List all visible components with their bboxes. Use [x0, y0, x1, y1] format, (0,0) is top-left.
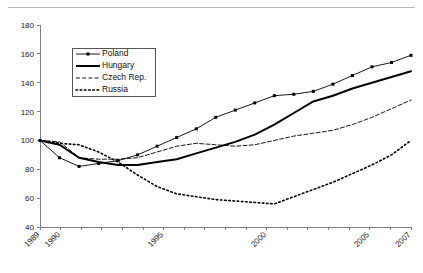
data-point-marker	[156, 145, 159, 148]
x-axis-tick-label: 1995	[146, 230, 165, 249]
y-axis: 406080100120140160180	[21, 21, 40, 232]
data-point-marker	[175, 136, 178, 139]
y-axis-tick-label: 100	[21, 136, 35, 145]
chart-container: 406080100120140160180 198919901995200020…	[0, 0, 423, 273]
data-point-marker	[253, 101, 256, 104]
data-point-marker	[234, 109, 237, 112]
data-point-marker	[292, 93, 295, 96]
series-line-czech-rep	[40, 100, 411, 159]
data-point-marker	[273, 94, 276, 97]
legend-label-russia: Russia	[102, 84, 128, 94]
legend-label-czech-rep: Czech Rep.	[102, 72, 146, 82]
x-axis: 198919901995200020052007	[22, 227, 412, 249]
y-axis-tick-label: 180	[21, 21, 35, 30]
series-line-russia	[40, 140, 411, 203]
x-axis-tick-label: 2000	[249, 230, 268, 249]
data-point-marker	[195, 127, 198, 130]
data-point-marker	[214, 116, 217, 119]
data-point-marker	[312, 90, 315, 93]
line-chart-plot: 406080100120140160180 198919901995200020…	[0, 0, 423, 273]
data-point-marker	[390, 61, 393, 64]
y-axis-tick-label: 140	[21, 79, 35, 88]
data-point-marker	[331, 83, 334, 86]
legend-label-poland: Poland	[102, 48, 129, 58]
y-axis-tick-label: 80	[25, 165, 34, 174]
x-axis-tick-label: 2005	[352, 230, 371, 249]
y-axis-tick-label: 120	[21, 108, 35, 117]
data-point-marker	[136, 153, 139, 156]
x-axis-tick-label: 1990	[43, 230, 62, 249]
data-point-marker	[410, 54, 413, 57]
data-point-marker	[58, 156, 61, 159]
legend-marker-sample	[87, 53, 90, 56]
data-point-marker	[370, 65, 373, 68]
data-point-marker	[78, 165, 81, 168]
chart-legend: PolandHungaryCzech Rep.Russia	[72, 48, 155, 96]
x-axis-tick-label: 1989	[22, 230, 41, 249]
y-axis-tick-label: 160	[21, 50, 35, 59]
x-axis-tick-label: 2007	[393, 230, 412, 249]
y-axis-tick-label: 60	[25, 194, 34, 203]
legend-label-hungary: Hungary	[102, 60, 135, 70]
data-point-marker	[351, 74, 354, 77]
